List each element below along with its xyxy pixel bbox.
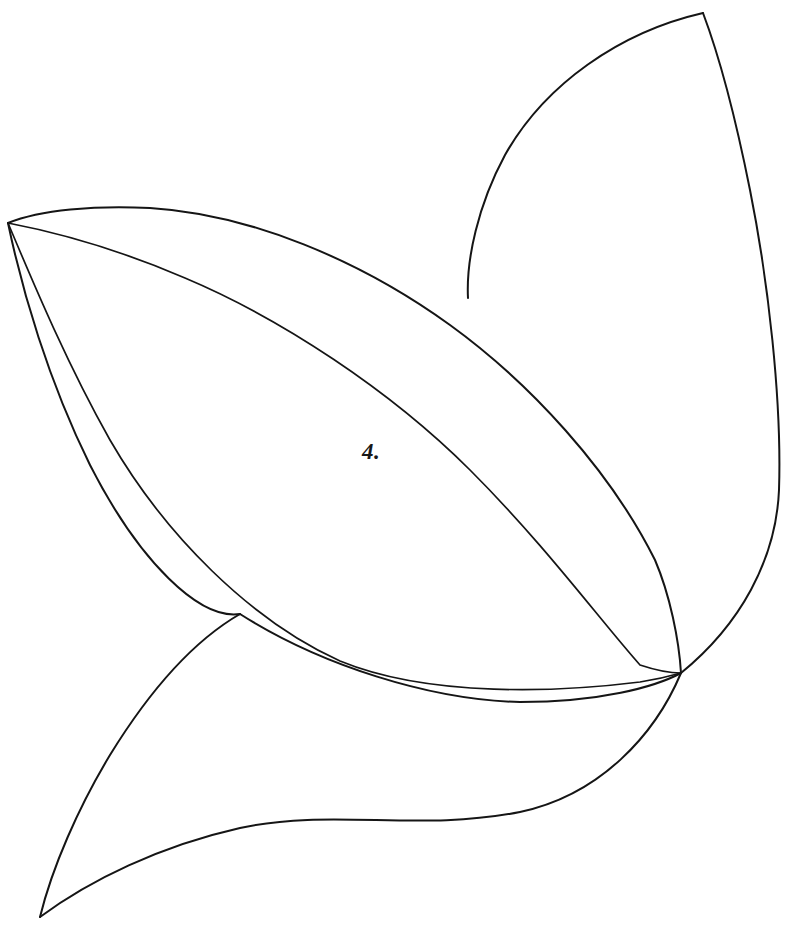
figure-number-label: 4. — [362, 440, 380, 463]
leaf-outer-lower-edge-stroke — [8, 223, 681, 702]
upper-petal-outer-edge-stroke — [468, 13, 703, 298]
figure-canvas: 4. — [0, 0, 798, 937]
leaf-drawing — [0, 0, 798, 937]
upper-petal-inner-edge-stroke — [681, 13, 779, 673]
leaf-outer-upper-edge-stroke — [8, 207, 681, 673]
lower-petal-upper-edge-stroke — [40, 614, 240, 917]
lower-petal-lower-edge-stroke — [40, 673, 681, 917]
leaf-inner-lower-edge-stroke — [8, 223, 681, 690]
